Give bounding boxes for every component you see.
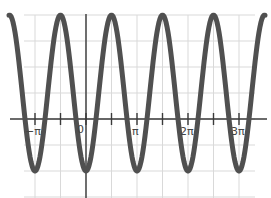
x-tick-label-pi: π [132,126,139,137]
x-tick-label-3pi: 3π [231,126,245,137]
x-tick-label-neg-pi: −π [25,126,41,137]
x-tick-label-2pi: 2π [180,126,194,137]
chart-plot-area [0,0,271,198]
x-tick-label-zero: 0 [77,124,84,135]
